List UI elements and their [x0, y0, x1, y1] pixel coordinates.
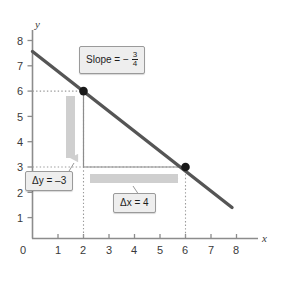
slope-figure: 8 7 6 5 4 3 2 1 0 1 2 3 4 5 6 7 8 y x Sl… — [0, 0, 281, 281]
point-a — [79, 87, 88, 96]
x-tick-7: 7 — [208, 245, 214, 256]
y-tick-3: 3 — [17, 162, 23, 173]
x-tick-3: 3 — [106, 245, 112, 256]
x-axis-label: x — [262, 233, 267, 244]
slope-denominator: 4 — [132, 60, 138, 68]
x-tick-8: 8 — [233, 245, 239, 256]
y-tick-6: 6 — [17, 86, 23, 97]
y-tick-1: 1 — [17, 213, 23, 224]
x-tick-2: 2 — [80, 245, 86, 256]
y-tick-5: 5 — [17, 112, 23, 123]
graph-canvas — [0, 0, 281, 281]
point-b — [181, 163, 190, 172]
x-tick-4: 4 — [131, 245, 137, 256]
y-tick-2: 2 — [17, 188, 23, 199]
x-tick-1: 1 — [55, 245, 61, 256]
y-axis-label: y — [35, 19, 40, 30]
y-tick-4: 4 — [17, 137, 23, 148]
slope-callout-lead: Slope = − — [86, 55, 129, 65]
delta-x-callout: Δx = 4 — [113, 193, 156, 213]
x-tick-6: 6 — [182, 245, 188, 256]
slope-fraction: 3 4 — [132, 51, 138, 69]
origin-label: 0 — [20, 245, 26, 256]
x-tick-5: 5 — [157, 245, 163, 256]
delta-y-callout: Δy = –3 — [25, 171, 73, 191]
slope-callout: Slope = − 3 4 — [79, 46, 145, 74]
y-tick-7: 7 — [17, 61, 23, 72]
y-tick-8: 8 — [17, 36, 23, 47]
